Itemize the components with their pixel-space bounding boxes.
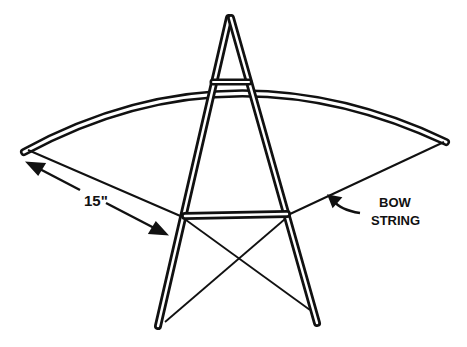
a-frame <box>158 18 317 326</box>
dimension-label: 15" <box>84 192 108 209</box>
bow-label: BOW <box>379 195 412 210</box>
bow-string-pointer <box>329 196 360 213</box>
string-label: STRING <box>371 213 420 228</box>
kite-diagram: 15" BOW STRING <box>0 0 467 347</box>
bow-spar <box>24 93 446 152</box>
